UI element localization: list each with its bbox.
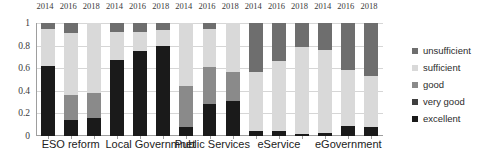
year-label: 2018 [222,1,239,11]
legend-label: excellent [423,113,461,124]
legend-swatch-icon [412,82,418,88]
bar-segment [249,72,263,132]
bar [64,23,78,136]
year-label: 2014 [175,1,192,11]
bar-segment [318,23,332,50]
bar-segment [364,76,378,127]
bar [156,23,170,136]
bar-segment [318,50,332,132]
legend-label: unsufficient [423,45,471,56]
year-tick-label-row: 2014201620182014201620182014201620182014… [0,0,498,16]
year-label: 2016 [129,1,146,11]
bar-segment [203,67,217,104]
plot-area [36,23,383,136]
legend-swatch-icon [412,48,418,54]
bar-segment [110,32,124,60]
bar-segment [295,47,309,134]
bar [203,23,217,136]
bar-segment [295,23,309,47]
category-label-row: ESO reformLocal GovernmnetPublic Service… [0,138,498,154]
bar-segment [156,23,170,30]
bar-segment [110,23,124,32]
bar-segment [64,23,78,33]
bar-segment [110,60,124,136]
stacked-bar-chart: 2014201620182014201620182014201620182014… [0,0,498,164]
bar-segment [64,33,78,95]
year-label: 2014 [314,1,331,11]
bar-segment [87,118,101,136]
year-label: 2014 [106,1,123,11]
category-label: eService [244,138,313,151]
bar-segment [133,32,147,51]
legend-item: very good [412,93,498,110]
bar-segment [364,127,378,136]
bar-segment [341,70,355,125]
bar-segment [203,29,217,67]
bar-segment [179,23,193,86]
chart-legend: unsufficientsufficientgoodvery goodexcel… [412,42,498,127]
bar-segment [64,120,78,136]
bar [41,23,55,136]
y-axis-tick-labels: 00.20.40.60.81 [0,23,34,136]
bar [226,23,240,136]
bar-segment [249,23,263,72]
year-label: 2014 [245,1,262,11]
legend-label: very good [423,96,465,107]
year-label: 2016 [337,1,354,11]
bar-segment [41,23,55,29]
bar [249,23,263,136]
bar [87,23,101,136]
bar-segment [64,95,78,120]
year-label: 2018 [83,1,100,11]
legend-item: sufficient [412,59,498,76]
bar-segment [203,23,217,29]
bar-segment [87,23,101,93]
y-axis-tick-label: 0.6 [18,63,30,73]
bar [318,23,332,136]
bar-segment [364,23,378,76]
y-axis-tick-label: 0.2 [18,108,30,118]
bar-series-container [36,23,383,136]
legend-label: good [423,79,444,90]
bar-segment [156,46,170,136]
year-label: 2016 [199,1,216,11]
bar [133,23,147,136]
year-label: 2018 [291,1,308,11]
bar-segment [133,51,147,136]
y-axis-tick-label: 0.8 [18,41,30,51]
category-label: Public Services [175,138,244,151]
y-axis-tick-label: 0.4 [18,86,30,96]
category-label: ESO reform [36,138,105,151]
bar-segment [41,66,55,136]
legend-swatch-icon [412,65,418,71]
bar [341,23,355,136]
bar [110,23,124,136]
bar-segment [133,23,147,32]
category-label: Local Governmnet [105,138,174,151]
legend-item: unsufficient [412,42,498,59]
bar-segment [41,29,55,66]
bar-segment [226,23,240,72]
bar [295,23,309,136]
legend-item: excellent [412,110,498,127]
year-label: 2018 [152,1,169,11]
bar [272,23,286,136]
year-label: 2016 [60,1,77,11]
year-label: 2016 [268,1,285,11]
bar-segment [341,23,355,70]
bar-segment [272,61,286,131]
bar-segment [226,72,240,101]
bar-segment [179,86,193,127]
bar [179,23,193,136]
bar-segment [179,127,193,136]
bar [364,23,378,136]
legend-item: good [412,76,498,93]
y-axis-tick-label: 1 [25,18,30,28]
bar-segment [156,30,170,46]
bar-segment [226,101,240,136]
bar-segment [87,93,101,118]
legend-swatch-icon [412,116,418,122]
category-label: eGovernment [314,138,383,151]
year-label: 2018 [360,1,377,11]
bar-segment [272,23,286,61]
